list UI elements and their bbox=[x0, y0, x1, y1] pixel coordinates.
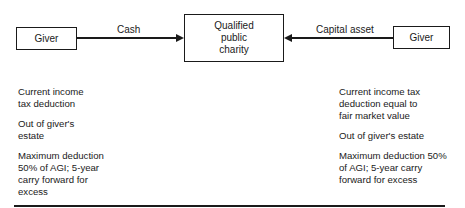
qualified-public-charity-box: Qualified public charity bbox=[184, 14, 284, 62]
note-maximum-deduction: Maximum deduction 50% of AGI; 5-year car… bbox=[339, 150, 464, 186]
capital-asset-arrow-line bbox=[292, 37, 393, 39]
charity-label-line-2: public bbox=[221, 32, 247, 44]
cash-gift-notes: Current income tax deduction Out of give… bbox=[18, 86, 158, 206]
note-tax-deduction: Current income tax deduction equal to fa… bbox=[339, 86, 464, 122]
note-maximum-deduction: Maximum deduction 50% of AGI; 5-year car… bbox=[18, 150, 158, 198]
giver-left-label: Giver bbox=[35, 33, 59, 45]
giver-right-label: Giver bbox=[410, 32, 434, 44]
note-estate: Out of giver's estate bbox=[18, 118, 158, 142]
giver-right-box: Giver bbox=[393, 26, 450, 49]
capital-asset-label: Capital asset bbox=[316, 24, 374, 36]
capital-asset-arrowhead-icon bbox=[284, 34, 292, 42]
cash-arrow-line bbox=[77, 37, 177, 39]
note-estate: Out of giver's estate bbox=[339, 130, 464, 142]
note-tax-deduction: Current income tax deduction bbox=[18, 86, 158, 110]
giver-left-box: Giver bbox=[16, 27, 77, 50]
charity-label-line-3: charity bbox=[219, 44, 248, 56]
capital-asset-gift-notes: Current income tax deduction equal to fa… bbox=[339, 86, 464, 194]
cash-arrowhead-icon bbox=[176, 34, 184, 42]
charity-label-line-1: Qualified bbox=[214, 20, 253, 32]
cash-label: Cash bbox=[117, 24, 140, 36]
bottom-rule-divider bbox=[14, 205, 445, 207]
